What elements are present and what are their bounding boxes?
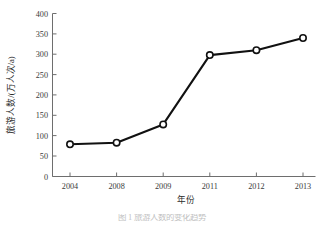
x-tick-label-2011: 2011 <box>202 182 218 191</box>
data-point-2011 <box>207 52 213 58</box>
x-tick-label-2004: 2004 <box>62 182 78 191</box>
data-point-2012 <box>253 47 259 53</box>
data-point-2013 <box>300 35 306 41</box>
y-tick-label-0: 0 <box>44 173 48 182</box>
line-chart: 400 350 300 250 200 150 100 50 0 2004 20… <box>0 0 324 227</box>
data-point-2008 <box>113 140 119 146</box>
data-point-2004 <box>67 141 73 147</box>
y-tick-label-200: 200 <box>36 91 48 100</box>
y-tick-label-50: 50 <box>40 152 48 161</box>
x-axis-tick-labels: 2004 2008 2009 2011 2012 2013 <box>62 182 311 191</box>
x-axis-ticks <box>70 173 303 177</box>
y-tick-label-250: 250 <box>36 71 48 80</box>
x-axis-title: 年份 <box>177 194 195 205</box>
y-tick-label-100: 100 <box>36 132 48 141</box>
series-line-tourist-count <box>70 38 303 144</box>
y-axis-title: 旅游人数/(万人次/a) <box>5 56 16 133</box>
x-tick-label-2009: 2009 <box>155 182 171 191</box>
y-tick-label-350: 350 <box>36 30 48 39</box>
figure-caption: 图 1 旅游人数的变化趋势 <box>0 214 324 222</box>
x-tick-label-2013: 2013 <box>295 182 311 191</box>
y-tick-label-300: 300 <box>36 50 48 59</box>
figure-caption-clip: 图 1 旅游人数的变化趋势 <box>0 214 324 227</box>
x-tick-label-2008: 2008 <box>108 182 124 191</box>
y-tick-label-400: 400 <box>36 10 48 19</box>
y-axis-tick-labels: 400 350 300 250 200 150 100 50 0 <box>36 10 48 182</box>
figure-container: 400 350 300 250 200 150 100 50 0 2004 20… <box>0 0 324 227</box>
y-tick-label-150: 150 <box>36 111 48 120</box>
x-tick-label-2012: 2012 <box>248 182 264 191</box>
data-point-2009 <box>160 121 166 127</box>
y-axis-ticks <box>53 14 57 177</box>
